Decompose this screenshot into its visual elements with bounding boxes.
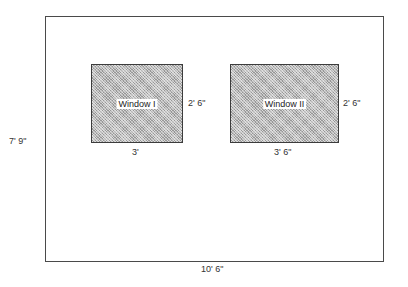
window-2-width-label: 3' 6" [274, 147, 291, 157]
window-1: Window I [91, 64, 183, 143]
wall-height-label: 7' 9" [9, 136, 26, 146]
wall-width-label: 10' 6" [201, 264, 223, 274]
window-1-width-label: 3' [132, 147, 139, 157]
window-2: Window II [230, 64, 339, 143]
window-2-label: Window II [263, 99, 307, 109]
window-2-height-label: 2' 6" [343, 98, 360, 108]
window-1-label: Window I [116, 99, 157, 109]
window-1-height-label: 2' 6" [188, 98, 205, 108]
